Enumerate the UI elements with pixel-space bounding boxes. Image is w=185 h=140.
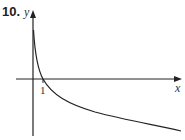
x-label: x	[174, 81, 181, 95]
curve	[34, 30, 182, 131]
y-axis-arrow-icon	[30, 10, 36, 18]
y-label: y	[23, 5, 30, 19]
x-tick-1: 1	[40, 84, 46, 96]
graph: y x 1	[0, 0, 185, 140]
